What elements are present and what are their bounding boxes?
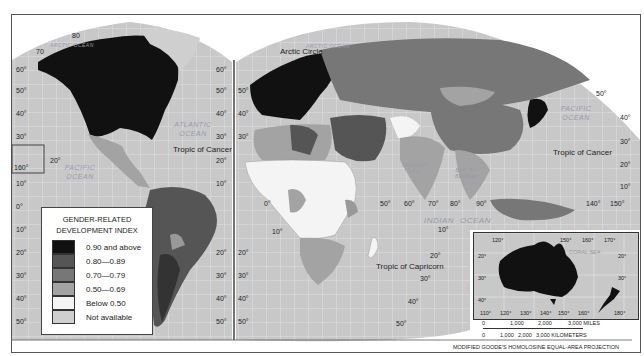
legend-item: 0.70—0.79 xyxy=(52,268,152,282)
lat-label: 80 xyxy=(72,32,80,39)
lat-label: 0° xyxy=(16,203,23,210)
scale-km-label: 1,000 xyxy=(500,332,514,338)
lon-label: 130° xyxy=(520,310,531,316)
legend-title-line: GENDER-RELATED xyxy=(42,214,152,225)
arctic-circle-label: Arctic Circle xyxy=(280,47,323,56)
legend-swatch xyxy=(52,282,75,296)
scale-line xyxy=(483,328,583,329)
indian-ocean-label: OCEAN xyxy=(460,216,491,225)
legend-item: 0.80—0.89 xyxy=(52,254,152,268)
legend-label: 0.90 and above xyxy=(86,243,141,252)
australia xyxy=(499,241,578,297)
legend-swatch xyxy=(52,296,75,310)
legend-item: Not available xyxy=(52,310,152,324)
australia-map xyxy=(474,233,638,319)
lat-label: 20° xyxy=(618,253,626,259)
lat-label: 30° xyxy=(478,275,486,281)
legend-label: Not available xyxy=(86,313,132,322)
lat-label: 50° xyxy=(216,87,227,94)
legend-swatch xyxy=(52,254,75,268)
scale-km-label: 2,000 xyxy=(518,332,532,338)
indian-ocean-label: INDIAN xyxy=(424,216,454,225)
lat-label: 20° xyxy=(50,157,61,164)
lat-label: 10° xyxy=(438,226,449,233)
lon-label: 70° xyxy=(428,200,439,207)
lat-label: 60° xyxy=(16,66,27,73)
lat-label: 30° xyxy=(238,272,249,279)
lat-label: 60° xyxy=(216,66,227,73)
lat-label: 40° xyxy=(238,295,249,302)
lat-label: 50° xyxy=(596,90,607,97)
scale-miles-label: 3,000 MILES xyxy=(568,320,600,326)
lon-label: 160° xyxy=(578,310,589,316)
lat-label: 30° xyxy=(620,138,631,145)
australia-inset: 120° 150° 160° 170° CORAL SEA 20° 30° 40… xyxy=(473,232,639,320)
legend-item: 0.50—0.69 xyxy=(52,282,152,296)
scale-miles-label: 0 xyxy=(482,320,485,326)
lat-label: 30° xyxy=(420,275,431,282)
lon-label: 160° xyxy=(582,237,593,243)
lon-label: 180° xyxy=(614,310,625,316)
lon-label: 0° xyxy=(264,200,271,207)
lon-label: 150° xyxy=(610,200,624,207)
arctic-ocean-label: ARCTIC OCEAN xyxy=(50,41,94,50)
lat-label: 20° xyxy=(238,249,249,256)
lat-label: 70 xyxy=(36,48,44,55)
lat-label: 30° xyxy=(16,133,27,140)
lat-label: 40° xyxy=(238,110,249,117)
tropic-cancer-label: Tropic of Cancer xyxy=(553,148,612,157)
lat-label: 30° xyxy=(216,272,227,279)
projection-note: MODIFIED GOODE'S HOMOLOSINE EQUAL-AREA P… xyxy=(453,344,619,350)
lon-label: 150° xyxy=(558,310,569,316)
lat-label: 40° xyxy=(408,298,419,305)
coral-sea-label: CORAL SEA xyxy=(569,249,600,255)
lon-label: 110° xyxy=(480,310,491,316)
lat-label: 50° xyxy=(16,318,27,325)
lon-label: 140° xyxy=(540,310,551,316)
scale-km-label: 3,000 KILOMETERS xyxy=(536,332,587,338)
lat-label: 10° xyxy=(16,226,27,233)
lat-label: 10° xyxy=(16,180,27,187)
legend-swatch xyxy=(52,240,75,254)
lat-label: 30° xyxy=(16,272,27,279)
legend-label: 0.80—0.89 xyxy=(86,257,125,266)
lon-label: 170° xyxy=(604,237,615,243)
lon-label: 120° xyxy=(500,310,511,316)
lon-label: 10° xyxy=(272,228,283,235)
lat-label: 10° xyxy=(620,183,631,190)
lat-label: 50° xyxy=(16,87,27,94)
lon-label: 80° xyxy=(450,200,461,207)
lat-label: 40° xyxy=(16,110,27,117)
lat-label: 30° xyxy=(618,275,626,281)
lat-label: 40° xyxy=(216,295,227,302)
lat-label: 20° xyxy=(620,161,631,168)
atlantic-ocean-label: ATLANTIC OCEAN xyxy=(170,120,216,138)
pacific-ocean-label: PACIFIC OCEAN xyxy=(554,104,598,122)
legend-item: Below 0.50 xyxy=(52,296,152,310)
legend: GENDER-RELATED DEVELOPMENT INDEX 0.90 an… xyxy=(41,207,153,335)
lat-label: 20° xyxy=(16,249,27,256)
lat-label: 160° xyxy=(14,164,28,171)
lon-label: 140° xyxy=(586,200,600,207)
lat-label: 40° xyxy=(16,295,27,302)
legend-swatch xyxy=(52,310,75,324)
lat-label: 40° xyxy=(620,114,631,121)
lon-label: 50° xyxy=(380,200,391,207)
lon-label: 60° xyxy=(404,200,415,207)
lat-label: 30° xyxy=(216,133,227,140)
tropic-cancer-label: Tropic of Cancer xyxy=(173,145,232,154)
lon-label: 150° xyxy=(560,237,571,243)
lat-label: 10° xyxy=(216,180,227,187)
lon-label: 120° xyxy=(492,237,503,243)
bay-of-bengal-label: BAY OF BENGAL xyxy=(455,167,477,179)
lat-label: 30° xyxy=(238,133,249,140)
scale-miles-label: 1,000 xyxy=(510,320,524,326)
lat-label: 20° xyxy=(216,157,227,164)
lat-label: 50° xyxy=(238,87,249,94)
lat-label: 50° xyxy=(396,320,407,327)
scale-km-label: 0 xyxy=(482,332,485,338)
legend-label: Below 0.50 xyxy=(86,299,126,308)
pacific-ocean-label: PACIFIC OCEAN xyxy=(60,163,100,181)
legend-label: 0.70—0.79 xyxy=(86,271,125,280)
lat-label: 40° xyxy=(478,297,486,303)
